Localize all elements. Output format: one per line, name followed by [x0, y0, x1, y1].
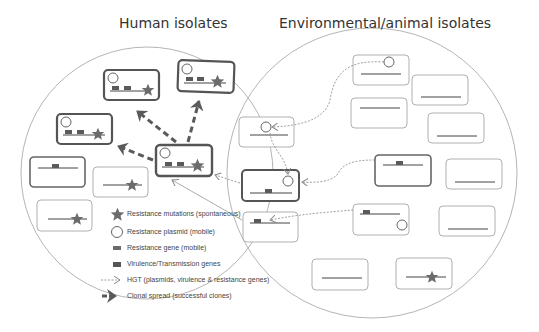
environment-isolate-box [428, 113, 484, 143]
environment-isolate-box [439, 206, 495, 236]
circle-icon [112, 227, 123, 238]
overlap-isolate-box [239, 117, 294, 147]
resistance-gene-icon [65, 130, 72, 134]
resistance-gene-icon [112, 86, 119, 90]
legend-label-mutations: Resistance mutations (spontaneous) [127, 210, 241, 217]
human-hub-clone-box [156, 145, 212, 176]
human-isolate-box [30, 157, 85, 187]
resistance-gene-icon [254, 219, 261, 223]
virulence-gene-icon [177, 162, 184, 166]
resistance-gene-icon [165, 162, 172, 166]
diagram-canvas [0, 0, 539, 332]
environment-isolate-box [353, 204, 409, 235]
human-isolate-box [104, 70, 159, 100]
resistance-gene-icon [363, 210, 370, 214]
legend-label-clonal-spread: Clonal spread (successful clones) [127, 292, 232, 299]
environment-isolate-box [351, 98, 407, 128]
virulence-gene-icon [396, 161, 403, 165]
environment-isolate-box [446, 159, 502, 189]
virulence-gene-icon [197, 77, 204, 81]
human-isolates-title: Human isolates [119, 15, 228, 31]
small-rect-icon [113, 246, 121, 250]
plasmid-icon [182, 64, 192, 74]
legend [101, 208, 124, 296]
legend-label-hgt: HGT (plasmids, virulence & resistance ge… [127, 276, 269, 283]
legend-label-plasmid: Resistance plasmid (mobile) [127, 228, 215, 235]
plasmid-icon [160, 148, 170, 158]
plasmid-icon [108, 73, 118, 83]
plasmid-icon [283, 176, 293, 186]
virulence-gene-icon [124, 86, 131, 90]
environmental-isolates-title: Environmental/animal isolates [279, 15, 491, 31]
dark-rect-icon [113, 262, 121, 267]
environment-isolate-box [353, 55, 409, 85]
environment-isolate-box [375, 155, 431, 186]
plasmid-icon [261, 122, 271, 132]
environment-isolate-box [312, 259, 368, 290]
human-isolate-box [177, 60, 234, 93]
human-isolate-box [37, 200, 92, 231]
environment-isolate-box [396, 258, 452, 289]
star-icon [111, 208, 125, 221]
virulence-gene-icon [265, 189, 272, 193]
virulence-gene-icon [52, 164, 59, 168]
plasmid-icon [384, 57, 394, 67]
overlap-isolate-box [242, 170, 299, 201]
resistance-gene-icon [186, 77, 193, 81]
virulence-gene-icon [77, 130, 84, 134]
human-isolate-box [57, 114, 112, 144]
human-isolate-box [93, 167, 148, 197]
legend-label-resistance-gene: Resistance gene (mobile) [127, 244, 206, 251]
legend-label-virulence: Virulence/Transmission genes [127, 260, 220, 267]
environment-isolate-box [412, 75, 468, 105]
plasmid-icon [397, 220, 407, 230]
plasmid-icon [61, 117, 71, 127]
